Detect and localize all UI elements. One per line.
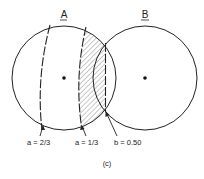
label-a-2-3: a = 2/3 bbox=[27, 138, 50, 147]
contour-a-2-3 bbox=[40, 25, 50, 130]
circle-b-label: B bbox=[142, 9, 149, 20]
arrow-b-0-50 bbox=[106, 111, 118, 136]
center-dot-b bbox=[143, 76, 147, 80]
label-b-0-50: b = 0.50 bbox=[114, 138, 141, 147]
arrow-a-2-3 bbox=[40, 125, 45, 136]
venn-diagram-figure: A B a = 2/3 a = 1/3 b = 0.50 (c) bbox=[0, 0, 204, 179]
figure-caption: (c) bbox=[103, 159, 112, 168]
label-a-1-3: a = 1/3 bbox=[75, 138, 98, 147]
center-dot-a bbox=[62, 76, 66, 80]
circle-a-label: A bbox=[61, 9, 68, 20]
